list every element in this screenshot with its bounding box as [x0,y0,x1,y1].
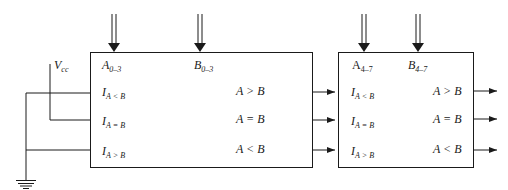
cascade-in-gt-label-2: IA > B [351,144,374,163]
bus-arrow-a4-7 [362,14,366,44]
input-b0-3-label: B0–3 [194,58,213,77]
bus-arrow-b0-3 [198,14,202,44]
cascade-in-eq-label-2: IA = B [351,114,374,133]
output-eq-label: A = B [236,112,265,126]
cascade-in-gt-label: IA > B [102,144,125,163]
bus-arrow-b4-7 [416,14,420,44]
output-gt-label-2: A > B [433,84,462,98]
output-lt-label-2: A < B [433,142,462,156]
input-a0-3-label: A0–3 [102,58,121,77]
output-eq-label-2: A = B [433,112,462,126]
ground-wire-lt [26,93,90,180]
ground-icon [16,181,36,189]
vcc-label: Vcc [54,58,68,77]
output-gt-label: A > B [236,84,265,98]
output-lt-label: A < B [236,142,265,156]
cascade-in-lt-label-2: IA < B [351,85,374,104]
cascade-in-eq-label: IA = B [102,114,125,133]
bus-arrow-a0-3 [112,14,116,44]
bus-arrowheads [108,43,424,52]
input-a4-7-label: A4–7 [352,58,373,77]
cascade-in-lt-label: IA < B [102,85,125,104]
input-b4-7-label: B4–7 [408,58,427,77]
